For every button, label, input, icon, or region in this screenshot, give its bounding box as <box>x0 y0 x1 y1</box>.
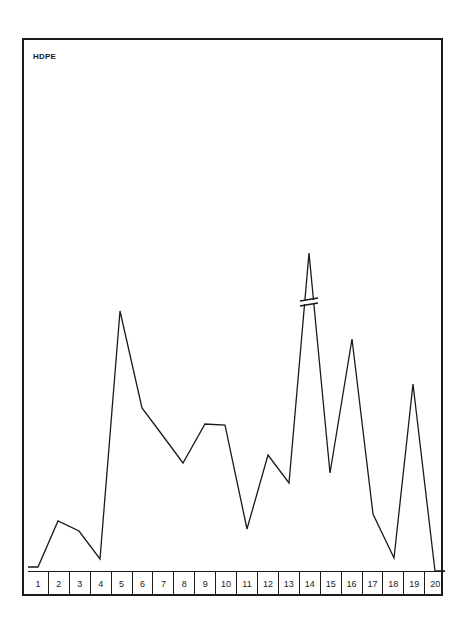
axis-break-marker <box>300 298 318 306</box>
x-axis-label: 15 <box>321 572 342 596</box>
x-axis-label: 10 <box>216 572 237 596</box>
line-plot <box>0 0 467 630</box>
x-axis-label: 1 <box>28 572 49 596</box>
data-series-line <box>28 253 445 571</box>
x-axis-label: 3 <box>70 572 91 596</box>
x-axis-label: 11 <box>237 572 258 596</box>
x-axis-label: 7 <box>153 572 174 596</box>
x-axis-label: 16 <box>342 572 363 596</box>
x-axis-category-row: 1234567891011121314151617181920 <box>28 571 445 596</box>
x-axis-label: 20 <box>425 572 445 596</box>
x-axis-label: 14 <box>300 572 321 596</box>
x-axis-label: 5 <box>112 572 133 596</box>
x-axis-label: 6 <box>133 572 154 596</box>
x-axis-label: 18 <box>383 572 404 596</box>
x-axis-label: 12 <box>258 572 279 596</box>
x-axis-label: 8 <box>174 572 195 596</box>
x-axis-label: 9 <box>195 572 216 596</box>
x-axis-label: 19 <box>404 572 425 596</box>
x-axis-label: 4 <box>91 572 112 596</box>
x-axis-label: 2 <box>49 572 70 596</box>
x-axis-label: 17 <box>363 572 384 596</box>
x-axis-label: 13 <box>279 572 300 596</box>
